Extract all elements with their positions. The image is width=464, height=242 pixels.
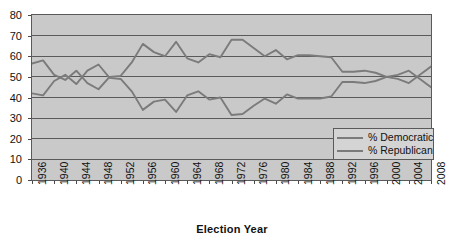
- x-axis-tick-label: 1980: [280, 162, 291, 185]
- x-axis-tick-label: 1948: [103, 162, 114, 185]
- x-axis-tick-label: 1964: [192, 162, 203, 185]
- x-axis-tick-label: 1940: [59, 162, 70, 185]
- legend-line-swatch-democratic: [337, 137, 363, 139]
- x-axis-tick-mark: [298, 181, 299, 184]
- x-axis-tick-mark: [165, 181, 166, 184]
- x-axis-tick-mark: [187, 181, 188, 184]
- x-axis-tick-mark: [32, 181, 33, 184]
- x-axis-tick-mark: [143, 181, 144, 184]
- x-axis-tick-label: 1996: [369, 162, 380, 185]
- x-axis-tick-label: 1960: [170, 162, 181, 185]
- x-axis-tick-label: 2000: [391, 162, 402, 185]
- legend-item-republican: % Republican: [337, 144, 430, 157]
- x-axis-tick-label: 1968: [214, 162, 225, 185]
- x-axis-tick-label: 1992: [347, 162, 358, 185]
- line-chart: 01020304050607080 1936194019441948195219…: [0, 0, 464, 242]
- x-axis-title: Election Year: [0, 223, 464, 235]
- x-axis-tick-mark: [209, 181, 210, 184]
- x-axis-tick-mark: [254, 181, 255, 184]
- x-axis-tick-mark: [121, 181, 122, 184]
- x-axis-tick-mark: [54, 181, 55, 184]
- x-axis-tick-mark: [431, 181, 432, 184]
- x-axis-tick-mark: [76, 181, 77, 184]
- x-axis-tick-label: 1976: [258, 162, 269, 185]
- x-axis-tick-mark: [320, 181, 321, 184]
- x-axis-tick-mark: [387, 181, 388, 184]
- x-axis-tick-label: 1936: [37, 162, 48, 185]
- x-axis-tick-label: 1944: [81, 162, 92, 185]
- x-axis-tick-mark: [409, 181, 410, 184]
- x-axis-tick-mark: [99, 181, 100, 184]
- x-axis-tick-label: 1984: [303, 162, 314, 185]
- legend-label-republican: % Republican: [368, 145, 433, 156]
- legend-item-democratic: % Democratic: [337, 131, 430, 144]
- x-axis: 1936194019441948195219561960196419681972…: [0, 0, 464, 242]
- legend-label-democratic: % Democratic: [368, 132, 433, 143]
- legend-line-swatch-republican: [337, 150, 363, 152]
- x-axis-tick-label: 1956: [147, 162, 158, 185]
- legend: % Democratic % Republican: [333, 128, 434, 160]
- x-axis-tick-mark: [342, 181, 343, 184]
- x-axis-tick-label: 2008: [436, 162, 447, 185]
- x-axis-tick-label: 1952: [125, 162, 136, 185]
- x-axis-tick-mark: [365, 181, 366, 184]
- x-axis-tick-label: 1972: [236, 162, 247, 185]
- x-axis-tick-label: 1988: [325, 162, 336, 185]
- x-axis-tick-label: 2004: [413, 162, 424, 185]
- x-axis-tick-mark: [276, 181, 277, 184]
- x-axis-tick-mark: [232, 181, 233, 184]
